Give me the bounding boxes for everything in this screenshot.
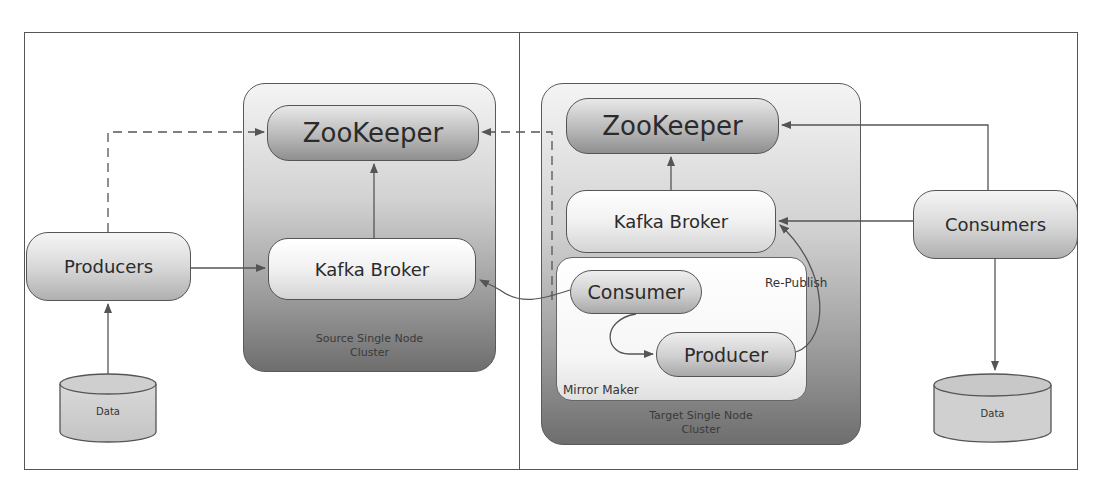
left-data-label: Data <box>58 406 158 417</box>
panel-divider <box>519 32 520 470</box>
right-data-store[interactable]: Data <box>932 372 1053 444</box>
target-cluster-label: Target Single Node Cluster <box>542 409 860 437</box>
source-cluster-label-line1: Source Single Node <box>244 332 495 346</box>
source-cluster-label-line2: Cluster <box>244 346 495 360</box>
target-cluster-label-line1: Target Single Node <box>542 409 860 423</box>
consumers-node[interactable]: Consumers <box>913 190 1078 259</box>
source-kafka-broker-node[interactable]: Kafka Broker <box>268 238 476 300</box>
source-zookeeper-label: ZooKeeper <box>303 118 444 148</box>
source-cluster-label: Source Single Node Cluster <box>244 332 495 360</box>
consumers-label: Consumers <box>945 214 1046 235</box>
left-data-store[interactable]: Data <box>58 372 158 444</box>
mirror-producer-node[interactable]: Producer <box>656 332 796 377</box>
source-zookeeper-node[interactable]: ZooKeeper <box>267 105 479 161</box>
right-data-label: Data <box>932 408 1053 419</box>
mirror-producer-label: Producer <box>684 344 768 366</box>
target-kafka-broker-node[interactable]: Kafka Broker <box>566 190 776 253</box>
producers-node[interactable]: Producers <box>26 232 191 301</box>
producers-label: Producers <box>64 256 153 277</box>
mirror-maker-label: Mirror Maker <box>563 383 639 397</box>
mirror-consumer-node[interactable]: Consumer <box>570 270 702 314</box>
target-cluster-label-line2: Cluster <box>542 423 860 437</box>
target-zookeeper-label: ZooKeeper <box>602 111 743 141</box>
republish-label: Re-Publish <box>765 276 827 290</box>
mirror-consumer-label: Consumer <box>588 281 685 303</box>
target-zookeeper-node[interactable]: ZooKeeper <box>566 98 779 154</box>
target-kafka-broker-label: Kafka Broker <box>614 211 728 232</box>
source-kafka-broker-label: Kafka Broker <box>315 259 429 280</box>
